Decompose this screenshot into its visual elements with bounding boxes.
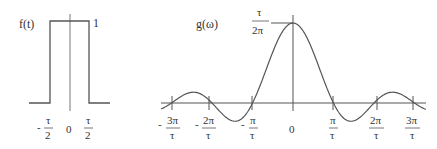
svg-text:3π: 3π (167, 114, 179, 126)
svg-text:2π: 2π (252, 24, 264, 36)
svg-text:τ: τ (374, 129, 379, 141)
svg-text:τ: τ (206, 129, 211, 141)
svg-text:π: π (250, 114, 256, 126)
svg-text:τ: τ (250, 129, 255, 141)
tick-den: 2 (85, 129, 91, 141)
right-tick-labels: - 3π τ - 2π τ - π τ 0 π τ 2π τ 3π τ (158, 114, 420, 141)
svg-text:τ: τ (330, 129, 335, 141)
pulse-height-label: 1 (93, 16, 99, 30)
svg-text:-: - (195, 118, 199, 130)
svg-text:τ: τ (257, 6, 262, 18)
svg-text:-: - (158, 118, 162, 130)
tick-den: 2 (45, 129, 51, 141)
peak-value-label: τ 2π (252, 6, 269, 36)
svg-text:3π: 3π (406, 114, 418, 126)
svg-text:0: 0 (289, 123, 295, 135)
g-omega-label: g(ω) (196, 17, 218, 31)
svg-text:τ: τ (410, 129, 415, 141)
left-tick-labels: - τ 2 0 τ 2 (37, 114, 93, 141)
svg-text:-: - (241, 118, 245, 130)
svg-text:π: π (330, 114, 336, 126)
tick-num: τ (46, 114, 51, 126)
tick-zero: 0 (66, 123, 72, 135)
tick-sign: - (37, 121, 41, 133)
svg-text:τ: τ (170, 129, 175, 141)
tick-num: τ (86, 114, 91, 126)
svg-text:2π: 2π (203, 114, 215, 126)
svg-text:2π: 2π (370, 114, 382, 126)
f-t-label: f(t) (19, 17, 34, 31)
fourier-transform-diagram: f(t) 1 - τ 2 0 τ 2 g(ω) τ 2π - 3π (0, 0, 437, 149)
